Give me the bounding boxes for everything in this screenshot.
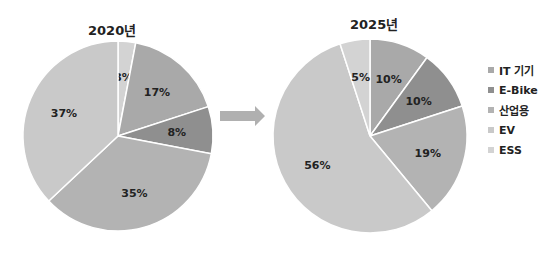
legend-swatch: [488, 127, 494, 133]
legend-label: EV: [499, 124, 515, 137]
legend-label: ESS: [499, 144, 522, 157]
legend-label: E-Bike: [499, 84, 538, 97]
legend: IT 기기E-Bike산업용EVESS: [488, 60, 538, 160]
legend-item: EV: [488, 120, 538, 140]
pie-charts: 3%17%8%35%37%10%10%19%56%5%: [0, 0, 560, 253]
legend-item: 산업용: [488, 100, 538, 120]
legend-item: IT 기기: [488, 60, 538, 80]
legend-swatch: [488, 107, 494, 113]
svg-text:35%: 35%: [121, 187, 147, 200]
legend-label: IT 기기: [499, 62, 534, 78]
legend-swatch: [488, 147, 494, 153]
svg-text:56%: 56%: [304, 159, 330, 172]
legend-swatch: [488, 67, 494, 73]
svg-text:19%: 19%: [415, 147, 441, 160]
legend-swatch: [488, 87, 494, 93]
legend-item: E-Bike: [488, 80, 538, 100]
svg-text:8%: 8%: [167, 126, 186, 139]
legend-label: 산업용: [499, 102, 529, 118]
arrow-icon: [220, 106, 265, 126]
svg-text:10%: 10%: [405, 95, 431, 108]
svg-text:17%: 17%: [144, 86, 170, 99]
legend-item: ESS: [488, 140, 538, 160]
svg-text:5%: 5%: [351, 71, 370, 84]
svg-text:37%: 37%: [51, 107, 77, 120]
svg-text:10%: 10%: [375, 73, 401, 86]
